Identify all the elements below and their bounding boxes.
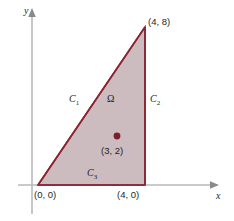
apex-vertex-label: (4, 8) xyxy=(148,17,170,27)
geometry-figure: y x (4, 8) (0, 0) (4, 0) C1 C2 C3 Ω (3, … xyxy=(0,0,234,221)
bottom-right-vertex-label: (4, 0) xyxy=(117,190,139,200)
x-axis-arrowhead xyxy=(210,181,219,189)
interior-point-label: (3, 2) xyxy=(101,146,123,156)
y-axis-label: y xyxy=(24,6,28,16)
curve-c2-subscript: 2 xyxy=(157,99,161,107)
curve-c1-label: C1 xyxy=(69,94,79,107)
y-axis-arrowhead xyxy=(28,8,36,17)
curve-c2-letter: C xyxy=(150,93,157,104)
curve-c3-label: C3 xyxy=(87,168,97,181)
curve-c2-label: C2 xyxy=(150,94,160,107)
curve-c1-subscript: 1 xyxy=(76,99,80,107)
y-axis xyxy=(28,8,36,214)
x-axis-label: x xyxy=(216,191,220,201)
interior-point-dot xyxy=(114,133,121,140)
curve-c1-letter: C xyxy=(69,93,76,104)
omega-region-label: Ω xyxy=(107,94,114,104)
curve-c3-letter: C xyxy=(87,167,94,178)
figure-canvas xyxy=(0,0,234,221)
origin-vertex-label: (0, 0) xyxy=(34,190,56,200)
curve-c3-subscript: 3 xyxy=(94,173,98,181)
